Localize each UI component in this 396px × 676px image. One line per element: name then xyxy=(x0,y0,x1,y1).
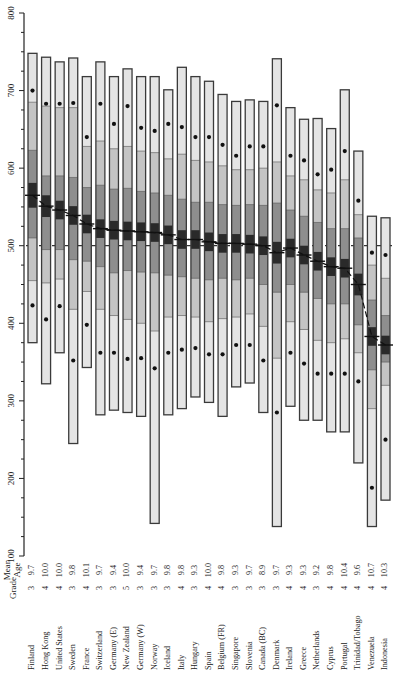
p95-dot xyxy=(180,125,184,129)
grade-value: 4 xyxy=(367,586,376,590)
p95-dot xyxy=(316,172,320,176)
p5-dot xyxy=(166,351,170,355)
mean-age-value: 9.7 xyxy=(272,565,281,575)
grade-value: 3 xyxy=(231,586,240,590)
p5-dot xyxy=(248,343,252,347)
box-denmark xyxy=(269,59,284,527)
p5-dot xyxy=(193,346,197,350)
mean-age-value: 9.4 xyxy=(109,565,118,575)
grade-value: 4 xyxy=(177,586,186,590)
p5-dot xyxy=(71,358,75,362)
grade-value: 3 xyxy=(163,586,172,590)
grade-value: 3 xyxy=(258,586,267,590)
mean-age-value: 9.8 xyxy=(177,565,186,575)
country-label: Canada (BC) xyxy=(258,627,267,670)
box-finland xyxy=(25,53,40,342)
mean-age-value: 9.3 xyxy=(231,565,240,575)
p95-dot xyxy=(98,102,102,106)
grade-value: 4 xyxy=(204,586,213,590)
p5-dot xyxy=(58,304,62,308)
p95-dot xyxy=(207,135,211,139)
p5-dot xyxy=(85,323,89,327)
p5-dot xyxy=(356,379,360,383)
grade-value: 3 xyxy=(136,586,145,590)
p95-dot xyxy=(71,101,75,105)
box-hungary xyxy=(188,77,203,397)
mean-age-value: 9.6 xyxy=(353,565,362,575)
p95-dot xyxy=(125,104,129,108)
grade-value: 4 xyxy=(353,586,362,590)
mean-age-value: 10.3 xyxy=(380,563,389,577)
p95-dot xyxy=(356,199,360,203)
mean-age-value: 10.0 xyxy=(122,563,131,577)
country-label: Denmark xyxy=(272,639,281,670)
p5-dot xyxy=(180,348,184,352)
p95-dot xyxy=(85,135,89,139)
country-label: Norway xyxy=(150,643,159,670)
country-label: Spain xyxy=(204,651,213,670)
p5-dot xyxy=(112,351,116,355)
grade-value: 3 xyxy=(245,586,254,590)
grade-value: 3 xyxy=(109,586,118,590)
p95-dot xyxy=(153,129,157,133)
box-venezuela xyxy=(364,216,379,526)
country-label: Iceland xyxy=(163,646,172,670)
box-indonesia xyxy=(378,218,393,500)
country-label: France xyxy=(82,647,91,670)
grade-value: 4 xyxy=(340,586,349,590)
country-label: Trinidad/Tobago xyxy=(353,615,362,670)
percentile-boxplot-chart: 100200300400500600700800 Grade Mean Age … xyxy=(0,0,396,676)
box-cyprus xyxy=(324,129,339,432)
country-label: Slovenia xyxy=(245,641,254,670)
p95-dot xyxy=(220,143,224,147)
country-label: Italy xyxy=(177,654,186,670)
mean-age-value: 9.7 xyxy=(245,565,254,575)
p5-dot xyxy=(153,366,157,370)
grade-value: 4 xyxy=(55,586,64,590)
grade-value: 3 xyxy=(272,586,281,590)
box-netherlands xyxy=(310,118,325,420)
grade-value: 4 xyxy=(285,586,294,590)
p5-dot xyxy=(44,317,48,321)
p95-dot xyxy=(261,144,265,148)
mean-age-header-line1: Mean xyxy=(2,559,12,580)
box-united-states xyxy=(52,62,67,353)
mean-age-value: 9.7 xyxy=(150,565,159,575)
country-label: Germany (E) xyxy=(109,627,118,670)
country-label: Switzerland xyxy=(95,631,104,670)
y-axis: 100200300400500600700800 xyxy=(6,6,24,563)
country-label: Cyprus xyxy=(326,646,335,670)
country-label: Greece xyxy=(299,646,308,670)
p95-dot xyxy=(44,102,48,106)
p5-dot xyxy=(234,343,238,347)
mean-age-value: 9.8 xyxy=(68,565,77,575)
country-label: Netherlands xyxy=(312,630,321,670)
box-ireland xyxy=(283,108,298,407)
p95-dot xyxy=(58,102,62,106)
country-label: New Zealand xyxy=(122,626,131,670)
box-canada-bc- xyxy=(256,101,271,412)
p95-dot xyxy=(112,122,116,126)
mean-age-value: 10.0 xyxy=(55,563,64,577)
mean-age-value: 9.7 xyxy=(95,565,104,575)
p5-dot xyxy=(383,438,387,442)
grade-value: 3 xyxy=(312,586,321,590)
country-label: Hong Kong xyxy=(41,632,50,670)
box-norway xyxy=(147,77,162,524)
country-label: Hungary xyxy=(190,640,199,670)
box-slovenia xyxy=(242,100,257,383)
mean-age-value: 9.2 xyxy=(312,565,321,575)
box-plots xyxy=(25,53,393,526)
grade-value: 5 xyxy=(122,586,131,590)
p5-dot xyxy=(343,372,347,376)
y-tick-label: 800 xyxy=(6,6,16,20)
mean-age-value: 10.0 xyxy=(204,563,213,577)
box-hong-kong xyxy=(39,57,54,384)
p95-dot xyxy=(370,251,374,255)
mean-age-value: 10.4 xyxy=(340,563,349,577)
p95-dot xyxy=(139,126,143,130)
y-tick-label: 400 xyxy=(6,316,16,330)
y-tick-label: 200 xyxy=(6,471,16,485)
p95-dot xyxy=(343,149,347,153)
grade-value: 4 xyxy=(299,586,308,590)
